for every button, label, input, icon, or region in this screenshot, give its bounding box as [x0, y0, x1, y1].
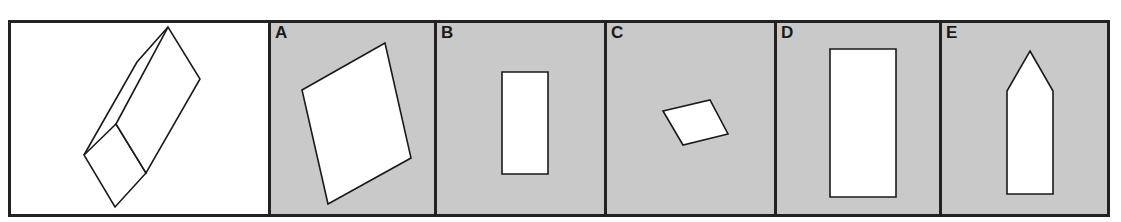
option-label-a: A [275, 24, 287, 41]
option-panel-a[interactable]: A [271, 23, 434, 214]
puzzle-frame: A B C D E [8, 20, 1110, 217]
option-panel-c[interactable]: C [607, 23, 774, 214]
option-label-e: E [946, 24, 957, 41]
option-label-d: D [781, 24, 793, 41]
option-label-c: C [611, 24, 623, 41]
option-panel-d[interactable]: D [777, 23, 939, 214]
option-panel-b[interactable]: B [437, 23, 604, 214]
puzzle-stage: A B C D E [0, 0, 1121, 222]
option-panel-e[interactable]: E [942, 23, 1107, 214]
prompt-panel [11, 23, 268, 214]
option-label-b: B [441, 24, 453, 41]
